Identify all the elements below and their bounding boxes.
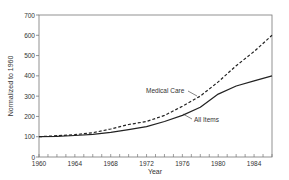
- medical-care-leader: [188, 91, 197, 96]
- x-tick-label: 1968: [103, 160, 118, 167]
- x-tick-label: 1972: [139, 160, 154, 167]
- y-tick-label: 100: [24, 133, 35, 140]
- y-tick-label: 600: [24, 32, 35, 39]
- all-items-leader: [183, 114, 192, 119]
- x-tick-label: 1960: [32, 160, 47, 167]
- all-items-label: All Items: [194, 116, 220, 123]
- x-tick-label: 1984: [247, 160, 262, 167]
- y-tick-label: 400: [24, 72, 35, 79]
- y-tick-label: 700: [24, 12, 35, 19]
- series-lines: [39, 35, 272, 136]
- line-chart: 0100200300400500600700196019641968197219…: [0, 0, 289, 180]
- x-tick-label: 1976: [175, 160, 190, 167]
- y-tick-label: 500: [24, 52, 35, 59]
- y-tick-label: 200: [24, 113, 35, 120]
- y-axis-label: Normalized to 1960: [7, 56, 14, 117]
- all-items-line: [39, 76, 272, 137]
- x-tick-label: 1964: [68, 160, 83, 167]
- medical-care-label: Medical Care: [146, 87, 185, 94]
- x-tick-label: 1980: [211, 160, 226, 167]
- y-tick-label: 300: [24, 93, 35, 100]
- x-axis-label: Year: [148, 168, 163, 175]
- chart-canvas: 0100200300400500600700196019641968197219…: [0, 0, 289, 180]
